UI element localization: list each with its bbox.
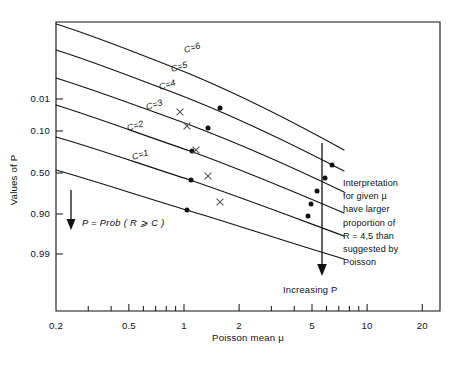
data-point-cross-0 — [217, 199, 224, 206]
curve-c4 — [56, 78, 344, 192]
prob-definition-annotation: P = Prob ( R ⩾ C ) — [67, 190, 165, 230]
y-tick-label-3: 0.90 — [31, 208, 50, 219]
interpretation-line-6: Poisson — [343, 257, 376, 267]
curve-c5 — [56, 50, 344, 171]
y-axis-title: Values of P — [8, 155, 19, 206]
interpretation-line-0: Interpretation — [343, 178, 398, 188]
interpretation-line-4: R = 4,5 than — [343, 231, 394, 241]
data-point-dot-7 — [323, 176, 328, 181]
data-point-dot-3 — [218, 106, 223, 111]
y-axis-ticks — [56, 99, 63, 254]
poisson-probability-chart: 0.010.100.500.900.99 0.20.51251020 C=1C=… — [0, 0, 456, 367]
cross-marker-group — [177, 109, 224, 206]
y-axis-tick-labels: 0.010.100.500.900.99 — [31, 93, 50, 259]
data-point-dot-0 — [185, 208, 190, 213]
x-tick-label-3: 2 — [236, 320, 242, 331]
data-point-cross-4 — [177, 109, 184, 116]
curve-c6 — [56, 24, 344, 150]
interpretation-line-1: for given μ — [343, 191, 387, 201]
data-point-dot-9 — [330, 163, 335, 168]
curve-label-c1: C=1 — [131, 147, 150, 162]
x-tick-label-1: 0.5 — [122, 320, 136, 331]
x-tick-label-4: 5 — [309, 320, 315, 331]
y-tick-label-4: 0.99 — [31, 248, 50, 259]
axes-rectangle — [56, 22, 440, 311]
data-point-cross-1 — [205, 173, 212, 180]
curve-label-c6: C=6 — [183, 40, 202, 55]
interpretation-line-3: proportion of — [343, 218, 396, 228]
curve-label-group: C=1C=2C=3C=4C=5C=6 — [126, 40, 202, 162]
prob-arrow-head-icon — [67, 219, 76, 230]
x-tick-label-0: 0.2 — [49, 320, 63, 331]
data-point-dot-1 — [189, 178, 194, 183]
increasing-p-label: Increasing P — [283, 284, 338, 295]
data-point-dot-5 — [309, 202, 314, 207]
data-point-dot-8 — [306, 214, 311, 219]
data-point-dot-4 — [206, 126, 211, 131]
increasing-p-annotation: Increasing P — [283, 143, 338, 295]
curve-label-c5: C=5 — [170, 59, 189, 74]
x-axis-ticks — [129, 304, 422, 311]
data-point-dot-6 — [315, 189, 320, 194]
x-axis-title: Poisson mean μ — [212, 332, 284, 343]
interpretation-annotation: Interpretationfor given μhave largerprop… — [343, 178, 399, 267]
interpretation-line-2: have larger — [343, 204, 390, 214]
y-tick-label-1: 0.10 — [31, 125, 50, 136]
prob-definition-label: P = Prob ( R ⩾ C ) — [82, 217, 165, 228]
increasing-p-arrow-head-icon — [317, 264, 327, 276]
y-tick-label-0: 0.01 — [31, 93, 50, 104]
curve-label-c4: C=4 — [158, 77, 177, 92]
x-axis-tick-labels: 0.20.51251020 — [49, 320, 428, 331]
chart-canvas: 0.010.100.500.900.99 0.20.51251020 C=1C=… — [0, 0, 456, 367]
curve-label-c2: C=2 — [126, 118, 145, 133]
x-tick-label-5: 10 — [362, 320, 373, 331]
x-tick-label-6: 20 — [417, 320, 428, 331]
curve-label-c3: C=3 — [145, 97, 164, 112]
dot-marker-group — [185, 106, 335, 219]
curve-c3 — [56, 105, 344, 213]
plot-frame — [56, 22, 440, 311]
y-tick-label-2: 0.50 — [31, 167, 50, 178]
interpretation-line-5: suggested by — [343, 244, 399, 254]
x-tick-label-2: 1 — [181, 320, 187, 331]
